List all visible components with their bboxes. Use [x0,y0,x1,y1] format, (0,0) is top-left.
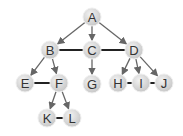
node-label: J [161,76,168,91]
arrow-B-E [31,57,45,75]
node-label: G [87,77,97,92]
node-H: H [109,74,127,92]
node-label: K [43,111,52,126]
node-L: L [63,109,81,127]
node-C: C [83,41,101,59]
node-label: D [129,43,138,58]
node-label: B [46,43,55,58]
node-J: J [155,74,173,92]
parent-child-arrows [31,23,157,109]
node-D: D [125,41,143,59]
arrow-F-K [50,92,56,109]
node-K: K [38,109,56,127]
node-label: L [68,111,75,126]
node-G: G [83,75,101,93]
arrow-D-J [140,57,157,76]
node-label: F [55,76,63,91]
node-A: A [83,8,101,26]
arrow-A-D [99,23,126,44]
node-F: F [50,74,68,92]
tree-diagram: ABCDEFGHIJKL [0,0,183,136]
node-I: I [132,74,150,92]
arrow-D-I [136,59,139,73]
node-label: A [88,10,97,25]
arrow-B-F [52,59,56,74]
arrow-A-B [58,23,85,44]
node-E: E [16,74,34,92]
node-B: B [41,41,59,59]
arrow-D-H [122,58,130,74]
node-label: H [113,76,122,91]
node-label: E [21,76,30,91]
arrow-F-L [62,91,68,108]
node-label: I [139,76,143,91]
node-label: C [87,43,96,58]
